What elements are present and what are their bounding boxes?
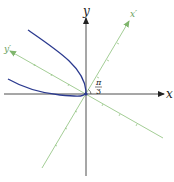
angle-numerator: π [95, 78, 102, 87]
y-prime-label: y′ [3, 44, 11, 54]
x-prime-label: x′ [130, 9, 137, 19]
origin-point [84, 92, 87, 95]
angle-arc [89, 90, 92, 94]
y-axis-label: y [82, 4, 90, 18]
diagram-canvas: y x x′ y′ π 3 [0, 0, 174, 182]
x-axis-label: x [166, 87, 173, 101]
parabola-curve [8, 30, 86, 96]
angle-denominator: 3 [96, 87, 101, 96]
angle-label: π 3 [95, 78, 102, 96]
